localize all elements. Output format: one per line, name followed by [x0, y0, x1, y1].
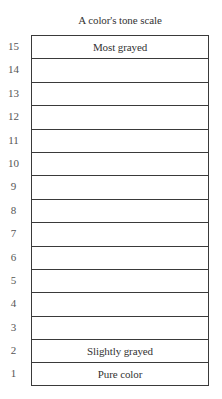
scale-cell: Pure color	[31, 362, 209, 385]
level-number: 3	[0, 316, 27, 339]
scale-row-2: 2 Slightly grayed	[0, 339, 222, 362]
level-number: 12	[0, 105, 27, 128]
scale-row-15: 15 Most grayed	[0, 35, 222, 58]
scale-row-8: 8	[0, 199, 222, 222]
scale-cell	[31, 152, 209, 175]
scale-row-5: 5	[0, 269, 222, 292]
scale-cell	[31, 269, 209, 292]
level-number: 11	[0, 129, 27, 152]
scale-row-13: 13	[0, 82, 222, 105]
level-number: 6	[0, 246, 27, 269]
scale-row-9: 9	[0, 175, 222, 198]
scale-cell	[31, 222, 209, 245]
scale-row-6: 6	[0, 246, 222, 269]
scale-cell	[31, 105, 209, 128]
level-number: 2	[0, 339, 27, 362]
scale-cell	[31, 316, 209, 339]
level-number: 15	[0, 35, 27, 58]
scale-cell	[31, 175, 209, 198]
level-number: 5	[0, 269, 27, 292]
scale-cell	[31, 292, 209, 315]
scale-cell	[31, 82, 209, 105]
level-number: 9	[0, 175, 27, 198]
scale-cell	[31, 199, 209, 222]
level-number: 10	[0, 152, 27, 175]
scale-cell	[31, 246, 209, 269]
scale-row-7: 7	[0, 222, 222, 245]
diagram-title: A color's tone scale	[31, 14, 209, 26]
level-number: 1	[0, 362, 27, 385]
scale-row-10: 10	[0, 152, 222, 175]
scale-row-4: 4	[0, 292, 222, 315]
level-number: 4	[0, 292, 27, 315]
scale-cell	[31, 129, 209, 152]
level-number: 8	[0, 199, 27, 222]
scale-row-11: 11	[0, 129, 222, 152]
scale-row-14: 14	[0, 58, 222, 81]
scale-cell	[31, 58, 209, 81]
tone-scale: 15 Most grayed 14 13 12 11 10 9 8 7 6 5	[0, 35, 222, 386]
scale-cell: Slightly grayed	[31, 339, 209, 362]
level-number: 13	[0, 82, 27, 105]
level-number: 7	[0, 222, 27, 245]
scale-row-1: 1 Pure color	[0, 362, 222, 385]
scale-row-3: 3	[0, 316, 222, 339]
level-number: 14	[0, 58, 27, 81]
scale-cell: Most grayed	[31, 35, 209, 58]
scale-row-12: 12	[0, 105, 222, 128]
